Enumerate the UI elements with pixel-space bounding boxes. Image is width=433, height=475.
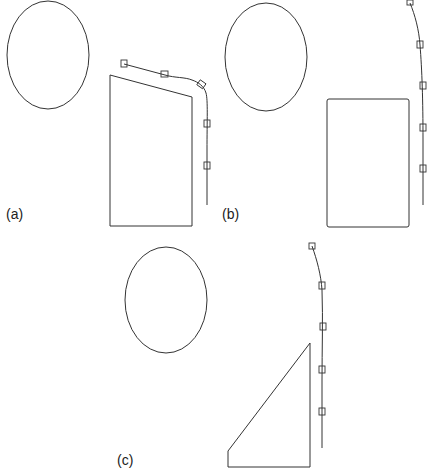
panel-label-c: (c) <box>117 452 133 468</box>
rect-obstacle-b <box>327 99 409 227</box>
cable-a <box>124 64 207 205</box>
panel-label-b: (b) <box>222 206 239 222</box>
ellipse-obstacle-a <box>7 1 89 109</box>
diagram-canvas <box>0 0 433 475</box>
ellipse-obstacle-c <box>125 247 207 353</box>
panel-a <box>7 1 210 226</box>
cable-nodes-a <box>121 60 210 169</box>
panel-b <box>225 0 426 227</box>
triangle-obstacle-c <box>228 343 310 467</box>
cable-c <box>312 246 322 448</box>
cable-nodes-c <box>309 243 326 415</box>
ellipse-obstacle-b <box>225 3 307 111</box>
quad-obstacle-a <box>110 75 192 226</box>
panel-label-a: (a) <box>6 206 23 222</box>
cable-b <box>410 3 423 205</box>
panel-c <box>125 243 326 467</box>
